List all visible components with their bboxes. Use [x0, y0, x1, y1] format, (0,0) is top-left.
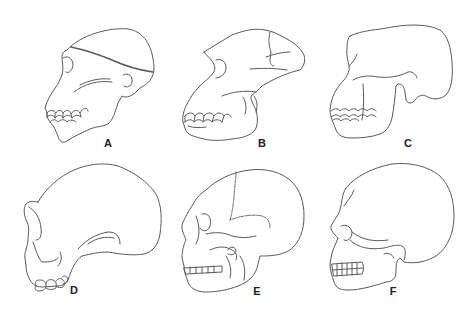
skull-d-drawing: [24, 164, 161, 291]
skull-figure: [0, 0, 463, 314]
panel-label-f: F: [386, 285, 400, 297]
skull-c-drawing: [330, 25, 452, 138]
skull-e-drawing: [182, 170, 304, 293]
panel-label-c: C: [401, 137, 415, 149]
skull-b-drawing: [183, 29, 305, 140]
skull-a-drawing: [45, 29, 154, 143]
panel-label-d: D: [67, 284, 81, 296]
skull-f-drawing: [330, 164, 454, 291]
panel-label-e: E: [250, 285, 264, 297]
panel-label-a: A: [101, 137, 115, 149]
panel-label-b: B: [255, 137, 269, 149]
